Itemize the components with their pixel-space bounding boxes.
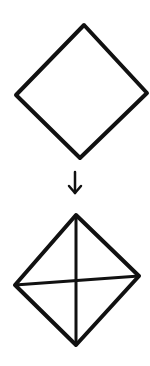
arrow-down-icon [69,172,81,193]
diamond-plain [16,25,147,158]
diamond-with-diagonals [15,215,139,345]
diagram-svg [0,0,150,366]
diagram-canvas [0,0,150,366]
